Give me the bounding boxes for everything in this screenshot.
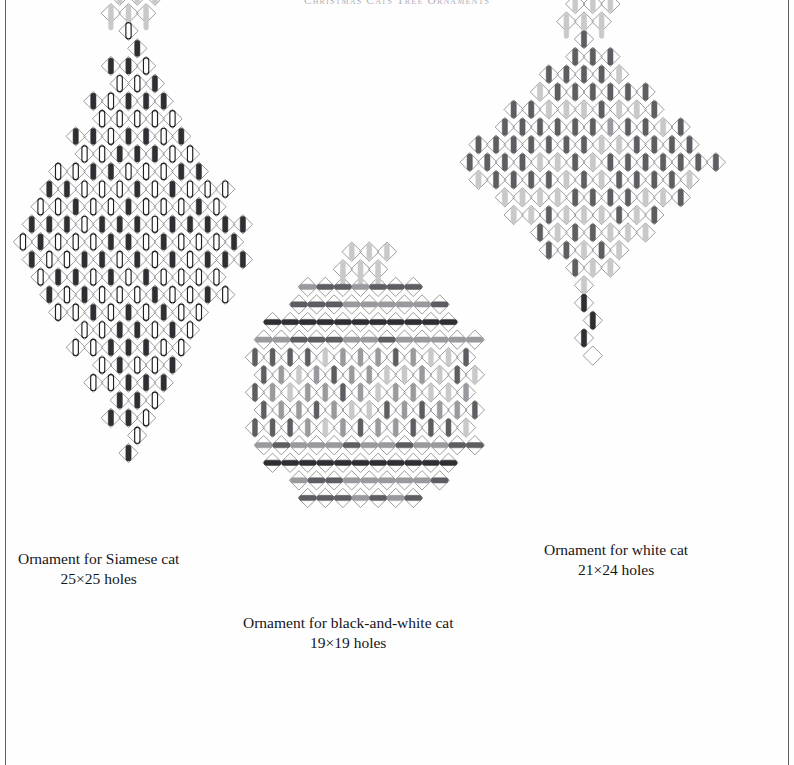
caption-line-2: 21×24 holes [544,560,688,580]
stitch-layer [20,0,245,461]
caption-ornament-black-and-white: Ornament for black-and-white cat 19×19 h… [243,613,453,653]
page-rule-right [788,0,789,765]
caption-line-2: 19×19 holes [243,633,453,653]
stitch-layer [467,0,718,347]
chart-ornament-white [424,0,744,400]
needlepoint-chart-white [424,0,744,400]
caption-ornament-white: Ornament for white cat 21×24 holes [544,540,688,580]
page-canvas: Christmas Cats Tree Ornaments Ornament f… [0,0,794,765]
caption-line-1: Ornament for Siamese cat [18,550,179,567]
caption-line-2: 25×25 holes [18,569,179,589]
caption-line-1: Ornament for white cat [544,541,688,558]
caption-line-1: Ornament for black-and-white cat [243,614,453,631]
caption-ornament-siamese: Ornament for Siamese cat 25×25 holes [18,549,179,589]
